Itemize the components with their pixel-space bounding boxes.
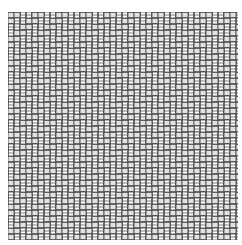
weave-pattern [0, 0, 242, 245]
weave-group [8, 12, 242, 240]
